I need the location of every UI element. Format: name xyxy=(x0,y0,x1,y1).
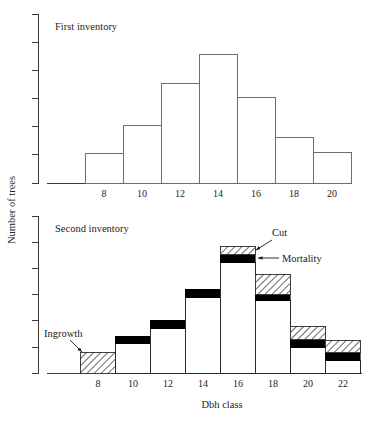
x-tick-label-12: 12 xyxy=(175,188,185,199)
bar-dbh-22-mortality xyxy=(325,352,360,361)
ingrowth-label: Ingrowth xyxy=(44,328,83,339)
x-tick-label-8: 8 xyxy=(96,378,101,389)
x-tick-label-12: 12 xyxy=(163,378,173,389)
x-tick-label-18: 18 xyxy=(268,378,278,389)
panel-second-inventory: Second inventory xyxy=(32,216,362,410)
bar-dbh-20-standing xyxy=(290,347,325,374)
x-axis-title: Dbh class xyxy=(201,399,242,410)
x-tick-label-20: 20 xyxy=(327,188,337,199)
annotation-cut: Cut xyxy=(256,227,287,250)
bar-group-dbh-22 xyxy=(325,340,360,374)
x-tick-label-14: 14 xyxy=(198,378,208,389)
panel-title-first-inventory: First inventory xyxy=(55,21,118,32)
bar-dbh-20-cut xyxy=(290,326,325,340)
bar-dbh-12-mortality xyxy=(150,320,185,329)
bars-first-inventory xyxy=(85,54,351,184)
bar-dbh-16-cut xyxy=(220,246,255,255)
bar-dbh-10-mortality xyxy=(115,336,150,344)
bar-group-dbh-16 xyxy=(220,246,255,374)
panel-title-second-inventory: Second inventory xyxy=(55,223,130,234)
x-axis-labels-first: 8 10 12 14 16 18 20 xyxy=(102,188,338,199)
two-panel-histogram-figure: Number of trees First inventory xyxy=(0,0,369,421)
x-tick-label-22: 22 xyxy=(338,378,348,389)
y-axis-ticks-first xyxy=(32,15,39,184)
x-tick-label-18: 18 xyxy=(289,188,299,199)
bar-group-dbh-20 xyxy=(290,326,325,374)
bar-dbh-10-standing xyxy=(115,343,150,374)
annotation-ingrowth: Ingrowth xyxy=(44,328,83,352)
bar-dbh-12-standing xyxy=(150,328,185,374)
x-tick-label-10: 10 xyxy=(137,188,147,199)
bar-dbh-16 xyxy=(237,97,275,184)
bar-dbh-14 xyxy=(199,54,237,184)
bar-dbh-8 xyxy=(85,153,123,184)
x-tick-label-10: 10 xyxy=(128,378,138,389)
bar-dbh-8-ingrowth xyxy=(80,352,115,374)
bar-dbh-22-standing xyxy=(325,360,360,374)
bar-dbh-18-mortality xyxy=(255,294,290,301)
bar-dbh-18-cut xyxy=(255,274,290,295)
bar-dbh-16-standing xyxy=(220,262,255,374)
bar-dbh-10 xyxy=(123,125,161,184)
x-tick-label-16: 16 xyxy=(251,188,261,199)
annotation-mortality: Mortality xyxy=(258,253,322,264)
bar-group-dbh-8 xyxy=(80,352,115,374)
bar-dbh-12 xyxy=(161,83,199,184)
cut-label: Cut xyxy=(272,227,287,238)
bar-dbh-18-standing xyxy=(255,300,290,374)
bar-group-dbh-14 xyxy=(185,289,220,374)
bar-group-dbh-10 xyxy=(115,336,150,374)
y-axis-ticks-second xyxy=(32,217,39,374)
mortality-label: Mortality xyxy=(282,253,322,264)
bar-dbh-20-mortality xyxy=(290,339,325,348)
bar-dbh-14-standing xyxy=(185,297,220,374)
bar-group-dbh-18 xyxy=(255,274,290,374)
y-axis-title: Number of trees xyxy=(6,176,17,244)
x-axis-labels-second: 8 10 12 14 16 18 20 22 xyxy=(96,378,349,389)
x-tick-label-20: 20 xyxy=(303,378,313,389)
bar-dbh-14-mortality xyxy=(185,289,220,298)
bar-group-dbh-12 xyxy=(150,320,185,374)
bar-dbh-16-mortality xyxy=(220,254,255,263)
panel-first-inventory: First inventory 8 10 12 xyxy=(32,14,351,199)
x-tick-label-16: 16 xyxy=(233,378,243,389)
x-tick-label-8: 8 xyxy=(102,188,107,199)
bar-dbh-22-cut xyxy=(325,340,360,353)
x-tick-label-14: 14 xyxy=(213,188,223,199)
bar-dbh-18 xyxy=(275,137,313,184)
bars-second-inventory xyxy=(80,246,360,374)
bar-dbh-20 xyxy=(313,152,351,184)
